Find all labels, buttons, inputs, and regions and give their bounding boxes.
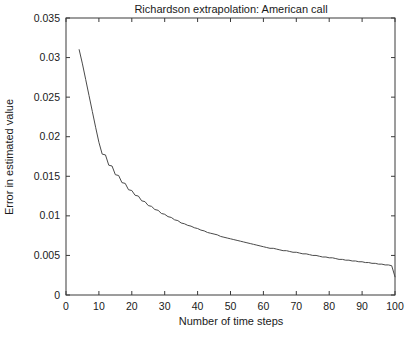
x-tick-label: 70 bbox=[290, 300, 302, 312]
x-tick-label: 80 bbox=[323, 300, 335, 312]
y-tick-label: 0.03 bbox=[40, 51, 61, 63]
y-tick-label: 0.02 bbox=[40, 130, 61, 142]
y-tick-label: 0.035 bbox=[34, 12, 60, 24]
y-axis-ticks bbox=[66, 18, 395, 295]
y-tick-label: 0.005 bbox=[34, 249, 60, 261]
plot-frame bbox=[66, 18, 395, 295]
y-axis-label: Error in estimated value bbox=[3, 99, 15, 215]
x-tick-label: 20 bbox=[126, 300, 138, 312]
data-series-line bbox=[79, 50, 395, 277]
y-tick-label: 0.01 bbox=[40, 209, 61, 221]
x-tick-label: 100 bbox=[386, 300, 404, 312]
y-tick-label: 0 bbox=[54, 289, 60, 301]
x-axis-label: Number of time steps bbox=[179, 315, 284, 327]
x-axis-tick-labels: 0102030405060708090100 bbox=[63, 300, 404, 312]
plot-box-border bbox=[66, 18, 395, 295]
x-tick-label: 40 bbox=[192, 300, 204, 312]
x-axis-ticks bbox=[66, 18, 395, 295]
x-tick-label: 0 bbox=[63, 300, 69, 312]
x-tick-label: 90 bbox=[356, 300, 368, 312]
y-tick-label: 0.015 bbox=[34, 170, 60, 182]
x-tick-label: 60 bbox=[258, 300, 270, 312]
chart-title: Richardson extrapolation: American call bbox=[134, 3, 327, 15]
x-tick-label: 50 bbox=[225, 300, 237, 312]
chart-page: Richardson extrapolation: American call … bbox=[0, 0, 418, 338]
x-tick-label: 30 bbox=[159, 300, 171, 312]
richardson-extrapolation-chart: Richardson extrapolation: American call … bbox=[0, 0, 418, 338]
y-tick-label: 0.025 bbox=[34, 91, 60, 103]
x-tick-label: 10 bbox=[93, 300, 105, 312]
y-axis-tick-labels: 00.0050.010.0150.020.0250.030.035 bbox=[34, 12, 60, 301]
